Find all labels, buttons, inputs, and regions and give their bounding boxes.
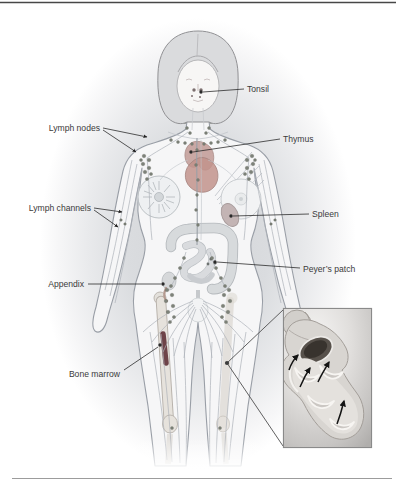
lymphatic-system-figure: Tonsil Lymph nodes Thymus Lymph channels…: [0, 0, 396, 495]
label-tonsil: Tonsil: [247, 84, 269, 94]
leg-fade: [128, 438, 270, 472]
label-appendix: Appendix: [48, 279, 85, 289]
label-thymus: Thymus: [283, 134, 314, 144]
label-peyers-patch: Peyer’s patch: [303, 264, 355, 274]
body-illustration: Tonsil Lymph nodes Thymus Lymph channels…: [0, 0, 396, 495]
label-lymph-nodes: Lymph nodes: [49, 123, 100, 133]
label-bone-marrow: Bone marrow: [69, 369, 121, 379]
breast-left-lymphatics: [138, 176, 180, 218]
lymph-vessel-valve-inset: [281, 309, 371, 448]
label-lymph-channels: Lymph channels: [29, 203, 91, 213]
head: [158, 31, 238, 130]
label-spleen: Spleen: [312, 209, 339, 219]
